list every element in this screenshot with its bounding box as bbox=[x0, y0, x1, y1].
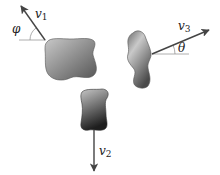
explosion-fragments-diagram: φ v1 θ v3 v2 bbox=[0, 0, 220, 175]
theta-label: θ bbox=[178, 41, 186, 55]
fragment-1 bbox=[45, 39, 96, 81]
diagram-canvas: φ v1 θ v3 v2 bbox=[0, 0, 220, 175]
phi-angle-arc bbox=[30, 28, 36, 40]
v3-label: v3 bbox=[178, 19, 191, 34]
v2-label: v2 bbox=[99, 144, 112, 159]
fragment-2 bbox=[81, 89, 108, 130]
phi-label: φ bbox=[12, 22, 21, 36]
fragment-1-shape bbox=[45, 39, 96, 81]
fragment-3 bbox=[127, 31, 151, 88]
theta-angle-arc bbox=[173, 45, 175, 54]
v1-label: v1 bbox=[35, 7, 48, 22]
fragment-2-shape bbox=[81, 89, 108, 130]
fragment-3-shape bbox=[127, 31, 151, 88]
